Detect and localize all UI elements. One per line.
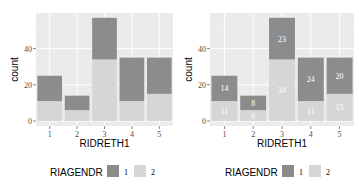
chart-svg: 1234502040RIDRETH1countRIAGENDR121114168…: [0, 0, 359, 189]
x-axis-title: RIDRETH1: [79, 138, 129, 149]
legend-key-1: [282, 165, 294, 177]
data-label: 6: [251, 112, 255, 121]
x-tick-label: 4: [309, 130, 313, 139]
x-axis-title: RIDRETH1: [257, 138, 307, 149]
y-tick-label: 20: [198, 81, 206, 90]
y-tick-label: 40: [198, 45, 206, 54]
legend-label-1: 1: [299, 168, 303, 177]
data-label: 24: [307, 75, 315, 84]
bar-segment-2: [147, 94, 172, 121]
bar-segment-1: [65, 96, 90, 110]
bar-segment-2: [37, 101, 62, 121]
legend-key-2: [134, 165, 146, 177]
x-tick-label: 1: [222, 130, 226, 139]
x-tick-label: 2: [251, 130, 255, 139]
x-tick-label: 5: [338, 130, 342, 139]
bar-segment-1: [147, 58, 172, 94]
x-tick-label: 1: [48, 130, 52, 139]
data-label: 8: [251, 99, 255, 108]
legend-label-2: 2: [151, 168, 155, 177]
y-tick-label: 40: [24, 45, 32, 54]
legend-title: RIAGENDR: [50, 167, 103, 178]
y-tick-label: 20: [24, 81, 32, 90]
legend-key-2: [309, 165, 321, 177]
bar-segment-2: [65, 110, 90, 121]
x-tick-label: 4: [130, 130, 134, 139]
y-axis-title: count: [9, 57, 20, 82]
y-tick-label: 0: [202, 117, 206, 126]
bar-segment-1: [37, 76, 62, 101]
y-tick-label: 0: [28, 117, 32, 126]
bar-segment-1: [120, 58, 145, 101]
legend-title: RIAGENDR: [225, 167, 278, 178]
bar-segment-1: [92, 18, 117, 60]
bar-segment-2: [92, 59, 117, 121]
data-label: 11: [307, 107, 315, 116]
bar-segment-2: [120, 101, 145, 121]
data-label: 14: [220, 84, 228, 93]
data-label: 34: [278, 86, 286, 95]
y-axis-title: count: [183, 57, 194, 82]
data-label: 15: [336, 103, 344, 112]
legend-key-1: [107, 165, 119, 177]
data-label: 20: [336, 72, 344, 81]
data-label: 11: [221, 107, 229, 116]
chart-figure: 1234502040RIDRETH1countRIAGENDR121114168…: [0, 0, 359, 189]
legend-label-2: 2: [326, 168, 330, 177]
data-label: 23: [278, 35, 286, 44]
legend-label-1: 1: [124, 168, 128, 177]
x-tick-label: 5: [157, 130, 161, 139]
